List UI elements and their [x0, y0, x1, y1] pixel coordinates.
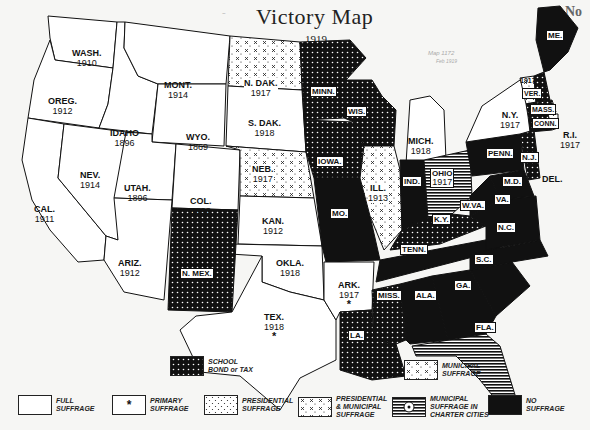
label-wis: WIS.: [346, 106, 367, 117]
label-tenn: TENN.: [400, 244, 428, 255]
state-iowa: [304, 120, 364, 178]
label-ga: GA.: [454, 280, 472, 291]
primary-star-icon: *: [338, 300, 360, 309]
swatch-municipal: [404, 360, 438, 380]
legend-primary-suffrage: * PRIMARYSUFFRAGE: [112, 395, 189, 415]
label-nc: N.C.: [496, 222, 516, 233]
label-ri: R.I.1917: [560, 130, 580, 150]
label-kan: KAN.1912: [262, 216, 284, 236]
swatch-municipal-charter-cities: [392, 397, 426, 417]
swatch-school-bond-tax: [170, 356, 204, 376]
label-mich: MICH.1918: [408, 136, 434, 156]
label-sdak: S. DAK.1918: [248, 118, 281, 138]
legend-full-suffrage: FULLSUFFRAGE: [18, 395, 95, 415]
label-nmex: N. MEX.: [180, 268, 214, 279]
label-va: VA.: [494, 194, 511, 205]
label-vt: VER.: [522, 88, 542, 99]
label-nev: NEV.1914: [80, 170, 100, 190]
label-oreg: OREG.1912: [48, 96, 77, 116]
label-ark: ARK.1917*: [338, 280, 360, 309]
label-minn: MINN.: [310, 86, 337, 97]
primary-star-icon: *: [127, 398, 132, 412]
label-mo: MO.: [330, 208, 349, 219]
label-okla: OKLA.1918: [276, 258, 304, 278]
label-utah: UTAH.1896: [124, 183, 151, 203]
legend-school-bond-tax: SCHOOLBOND or TAX: [170, 356, 253, 376]
label-me: ME.: [546, 30, 564, 41]
label-neb: NEB.1917: [252, 164, 274, 184]
label-cal: CAL.1911: [34, 204, 55, 224]
label-wash: WASH.1910: [72, 48, 102, 68]
label-ind: IND.: [402, 176, 422, 187]
state-nmex: [168, 208, 238, 312]
label-nj: N.J.: [520, 152, 539, 163]
swatch-primary-suffrage: *: [112, 395, 146, 415]
swatch-no-suffrage: [488, 395, 522, 415]
swatch-presidential-suffrage: [204, 395, 238, 415]
swatch-presidential-municipal: [298, 397, 332, 417]
label-mont: MONT.1914: [164, 80, 192, 100]
label-ariz: ARIZ.1912: [118, 258, 142, 278]
label-mass: MASS.: [530, 104, 556, 115]
label-col: COL.1893: [190, 196, 212, 216]
state-mont: [124, 22, 230, 84]
swatch-full-suffrage: [18, 395, 52, 415]
primary-star-icon: *: [264, 332, 284, 341]
legend-municipal: MUNICIPALSUFFRAGE: [404, 360, 481, 380]
label-la: LA.: [348, 330, 365, 341]
label-miss: MISS.: [376, 290, 402, 301]
label-wva: W.VA.: [460, 200, 486, 211]
label-wyo: WYO.1869: [186, 132, 210, 152]
label-penn: PENN.: [486, 148, 514, 159]
label-iowa: IOWA.: [316, 156, 344, 167]
label-conn: CONN.: [532, 118, 559, 129]
label-ny: N.Y.1917: [500, 110, 520, 130]
label-ohio: OHIO1917: [430, 168, 454, 188]
label-fla: FLA.: [474, 322, 496, 333]
label-ky: K.Y.: [432, 214, 451, 225]
label-vt-year: 1917: [520, 76, 536, 86]
label-md: M.D.: [502, 176, 523, 187]
label-del: DEL.: [542, 174, 563, 184]
label-ndak: N. DAK.1917: [244, 78, 278, 98]
legend-presidential-municipal: PRESIDENTIAL& MUNICIPALSUFFRAGE: [298, 395, 387, 419]
label-tex: TEX.1918*: [264, 312, 284, 341]
legend-municipal-charter-cities: MUNICIPALSUFFRAGE INCHARTER CITIES: [392, 395, 489, 419]
label-idaho: IDAHO1896: [110, 128, 139, 148]
legend-no-suffrage: NOSUFFRAGE: [488, 395, 565, 415]
label-ill: ILL.1913: [368, 183, 388, 203]
label-sc: S.C.: [474, 254, 494, 265]
label-ala: ALA.: [414, 290, 437, 301]
legend-presidential-suffrage: PRESIDENTIALSUFFRAGE: [204, 395, 293, 415]
